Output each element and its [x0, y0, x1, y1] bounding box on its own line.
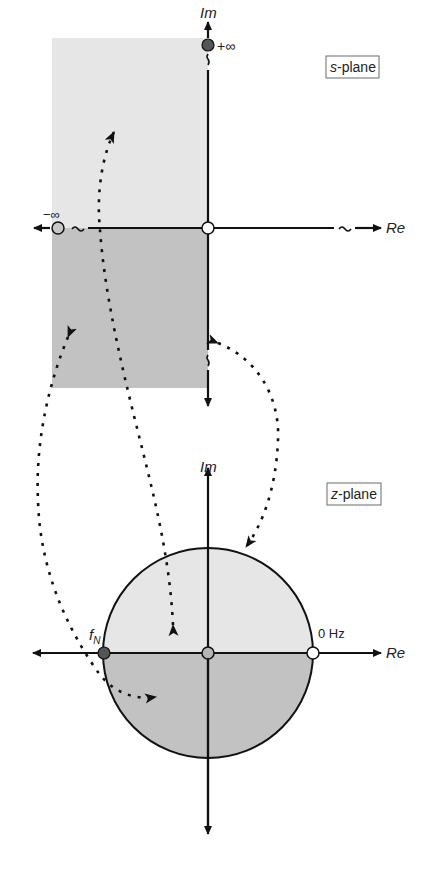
s-plane: Im +∞ −∞ Re s-plane [34, 4, 405, 406]
s-plus-infinity-label: +∞ [217, 38, 235, 54]
z-nyquist-label-sub: N [93, 635, 101, 646]
s-im-label: Im [200, 4, 217, 21]
z-nyquist-label: fN [89, 626, 101, 646]
z-plane-title-var: z [330, 486, 338, 502]
s-plus-infinity-point [202, 39, 214, 51]
s-plane-title-var: s [330, 59, 337, 75]
z-re-label: Re [386, 644, 405, 661]
z-plane-title-rest: -plane [338, 486, 377, 502]
z-nyquist-point [98, 647, 110, 659]
s-to-z-plane-mapping-diagram: Im +∞ −∞ Re s-plane Im Re 0 Hz fN [0, 0, 425, 871]
z-zero-hz-point [307, 647, 319, 659]
s-plane-lower-region [52, 228, 208, 388]
mapping-arrow-im-axis [218, 343, 278, 547]
z-zero-hz-label: 0 Hz [318, 626, 345, 641]
z-plane: Im Re 0 Hz fN z-plane [33, 458, 405, 834]
s-re-label: Re [386, 219, 405, 236]
s-minus-infinity-label: −∞ [43, 207, 60, 222]
s-plane-title: s-plane [330, 59, 376, 75]
z-center-point [202, 647, 214, 659]
z-im-label: Im [200, 458, 217, 475]
s-plane-upper-region [52, 38, 208, 228]
z-plane-title: z-plane [330, 486, 377, 502]
s-re-axis-break-right [339, 227, 351, 231]
s-minus-infinity-point [52, 222, 64, 234]
s-origin-point [202, 222, 214, 234]
s-plane-title-rest: -plane [337, 59, 376, 75]
